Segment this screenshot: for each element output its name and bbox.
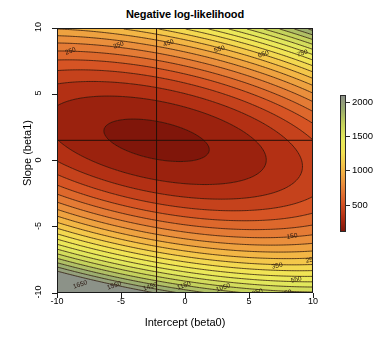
y-tick-label: 10 [33,10,43,44]
y-tick [52,94,57,95]
colorbar-tick-label: 1000 [352,164,373,175]
colorbar-tick [346,170,350,171]
y-tick [52,160,57,161]
y-tick-label: 0 [33,143,43,177]
y-tick-label: -5 [33,209,43,243]
colorbar-tick-label: 2000 [352,96,373,107]
y-tick [52,28,57,29]
plot-area: 2503504505506507508501502503504505506507… [57,28,313,293]
page-title: Negative log-likelihood [57,8,313,20]
contour-lines-canvas [58,29,313,293]
y-tick [52,226,57,227]
x-tick-label: 5 [229,296,269,306]
colorbar [340,95,346,232]
x-tick-label: -5 [101,296,141,306]
x-tick-label: -10 [37,296,77,306]
contour-plot-figure: Negative log-likelihood 2503504505506507… [0,0,392,346]
x-axis-title: Intercept (beta0) [57,316,313,328]
y-tick-label: 5 [33,76,43,110]
colorbar-tick [346,102,350,103]
y-axis-title: Slope (beta1) [21,73,33,233]
colorbar-tick [346,205,350,206]
y-tick [52,293,57,294]
colorbar-tick-label: 500 [352,199,368,210]
y-tick-label: -10 [33,275,43,309]
x-tick-label: 10 [293,296,333,306]
colorbar-tick-label: 1500 [352,130,373,141]
x-tick-label: 0 [165,296,205,306]
colorbar-tick [346,136,350,137]
